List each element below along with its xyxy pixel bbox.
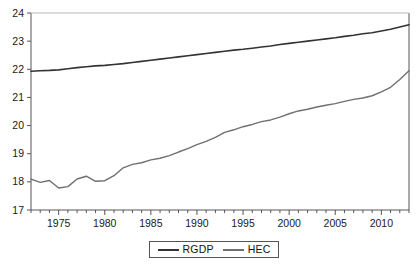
y-tick-label: 18 [12,175,24,187]
x-tick-label: 2000 [277,217,301,229]
x-tick-label: 1995 [231,217,255,229]
legend-swatch-hec [223,249,244,251]
legend-entry-rgdp: RGDP [158,244,214,255]
y-tick-label: 23 [12,35,24,47]
legend-label-hec: HEC [248,244,271,255]
x-tick-label: 1990 [185,217,209,229]
x-tick-label: 2005 [324,217,348,229]
legend-label-rgdp: RGDP [183,244,214,255]
series-line-rgdp [31,25,409,71]
line-chart-plot: 1718192021222324 19751980198519901995200… [0,0,418,266]
x-tick-label: 1985 [139,217,163,229]
legend-swatch-rgdp [158,249,179,251]
y-axis-ticks: 1718192021222324 [12,7,31,216]
x-tick-label: 1975 [47,217,71,229]
x-tick-label: 2010 [370,217,394,229]
y-tick-label: 21 [12,91,24,103]
legend-entry-hec: HEC [223,244,271,255]
chart-container: 1718192021222324 19751980198519901995200… [0,0,418,266]
y-tick-label: 22 [12,63,24,75]
y-tick-label: 20 [12,119,24,131]
y-tick-label: 24 [12,7,24,19]
x-axis-ticks: 19751980198519901995200020052010 [31,210,409,229]
x-tick-label: 1980 [93,217,117,229]
series-line-hec [31,71,409,188]
y-tick-label: 19 [12,147,24,159]
data-series-group [31,25,409,188]
y-tick-label: 17 [12,204,24,216]
chart-legend: RGDP HEC [149,241,279,258]
plot-frame [31,13,409,210]
